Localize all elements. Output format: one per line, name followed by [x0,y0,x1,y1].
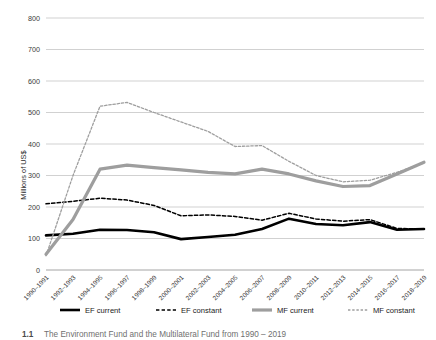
legend-label-mf-current: MF current [277,306,315,315]
y-axis-tick-labels: 0100200300400500600700800 [28,14,40,275]
x-tick-label: 2014–2015 [346,273,374,301]
y-tick-label: 400 [28,140,40,149]
series-line-mf-constant [46,102,424,255]
series-lines [46,102,424,255]
x-tick-label: 1992–1993 [49,273,77,301]
y-axis-title: Millions of US$ [19,150,28,199]
x-tick-label: 2002–2003 [184,273,212,301]
x-tick-label: 2004–2005 [211,273,239,301]
line-chart: 0100200300400500600700800 Millions of US… [0,0,436,340]
gridlines [46,18,424,270]
caption-number: 1.1 [22,330,34,339]
series-line-ef-current [46,219,424,239]
caption-body: The Environment Fund and the Multilatera… [44,330,287,339]
x-axis-tick-labels: 1990–19911992–19931994–19951996–19971998… [22,273,428,301]
x-tick-label: 2008–2009 [265,273,293,301]
x-tick-label: 2000–2001 [157,273,185,301]
x-tick-label: 1994–1995 [76,273,104,301]
x-tick-label: 1990–1991 [22,273,50,301]
x-tick-label: 1996–1997 [103,273,131,301]
series-line-ef-constant [46,198,424,229]
legend-label-mf-constant: MF constant [373,306,416,315]
figure-caption: 1.1 The Environment Fund and the Multila… [0,326,436,340]
chart-legend: EF currentEF constantMF currentMF consta… [60,306,416,315]
series-line-mf-current [46,162,424,254]
y-tick-label: 100 [28,234,40,243]
x-tick-label: 1998–1999 [130,273,158,301]
x-tick-label: 2018–2019 [400,273,428,301]
legend-label-ef-constant: EF constant [181,306,222,315]
x-tick-label: 2006–2007 [238,273,266,301]
x-tick-label: 2016–2017 [373,273,401,301]
y-tick-label: 700 [28,45,40,54]
legend-label-ef-current: EF current [85,306,121,315]
y-tick-label: 200 [28,203,40,212]
figure-container: 0100200300400500600700800 Millions of US… [0,0,436,340]
x-tick-label: 2010–2011 [292,273,320,301]
y-tick-label: 500 [28,108,40,117]
y-tick-label: 800 [28,14,40,23]
y-tick-label: 0 [36,266,40,275]
y-tick-label: 600 [28,77,40,86]
x-tick-label: 2012–2013 [319,273,347,301]
y-tick-label: 300 [28,171,40,180]
